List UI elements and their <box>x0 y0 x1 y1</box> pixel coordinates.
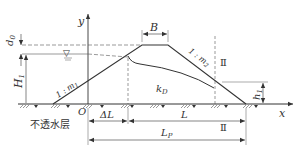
dam-seepage-diagram: y x O ▽ Ⅱ Ⅱ B d0 H1 1 : m1 1 : m2 kD h1 … <box>0 0 298 154</box>
origin-label: O <box>78 106 86 117</box>
permeability-label: kD <box>156 83 168 96</box>
ground-marks <box>34 105 258 108</box>
water-level-dashed <box>88 54 128 57</box>
x-axis-label: x <box>279 107 286 120</box>
impermeable-layer-label: 不透水层 <box>30 119 70 130</box>
L-label: L <box>180 109 188 120</box>
section-mark-top: Ⅱ <box>220 57 227 68</box>
delta-L-label: ΔL <box>99 109 114 120</box>
downstream-slope-label: 1 : m2 <box>186 46 211 68</box>
downstream-head-label: h1 <box>251 89 264 100</box>
section-mark-bottom: Ⅱ <box>220 122 227 133</box>
upstream-head-label: H1 <box>12 74 26 89</box>
y-axis-label: y <box>77 15 85 28</box>
upstream-slope-label: 1 : m1 <box>54 79 80 100</box>
crest-width-label: B <box>149 21 158 34</box>
water-level-symbol: ▽ <box>63 48 70 58</box>
Lp-label: LP <box>160 127 173 140</box>
freeboard-label: d0 <box>4 35 17 46</box>
impermeable-hatching <box>20 105 252 108</box>
